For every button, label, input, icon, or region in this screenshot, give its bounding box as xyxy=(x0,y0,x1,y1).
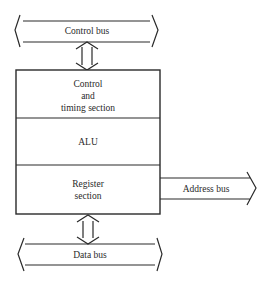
alu-section: ALU xyxy=(78,137,98,147)
register-section-line1: Register xyxy=(72,179,104,189)
data-bus-link-arrow-icon xyxy=(77,215,99,244)
address-bus-label: Address bus xyxy=(183,184,230,194)
address-bus: Address bus xyxy=(160,172,256,205)
alu-label: ALU xyxy=(78,137,98,147)
cpu-block: Control and timing section ALU Register … xyxy=(16,70,160,214)
control-bus-label: Control bus xyxy=(65,26,110,36)
data-bus-label: Data bus xyxy=(73,250,107,260)
control-section-line2: and xyxy=(81,91,95,101)
cpu-block-diagram: Control bus Control and timing section A… xyxy=(0,0,275,283)
control-section-line1: Control xyxy=(73,79,102,89)
control-section-line3: timing section xyxy=(61,103,115,113)
control-bus-link-arrow-icon xyxy=(76,42,98,70)
register-section-line2: section xyxy=(75,191,102,201)
